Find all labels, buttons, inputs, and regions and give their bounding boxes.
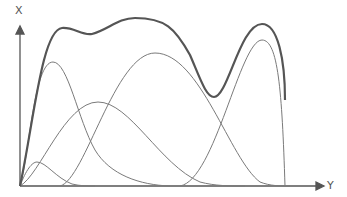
vertical-axis-arrow-icon: [16, 26, 24, 34]
component-curves: [20, 40, 290, 186]
horizontal-axis-arrow-icon: [316, 182, 324, 190]
component-curve-3: [20, 102, 245, 186]
component-curve-1: [20, 162, 95, 186]
component-curve-5: [180, 40, 285, 186]
horizontal-axis-label: Y: [327, 179, 334, 192]
gaussian-mixture-diagram: [0, 0, 347, 197]
envelope-curve: [20, 18, 285, 186]
vertical-axis-label: X: [15, 4, 23, 17]
component-curve-4: [60, 53, 290, 186]
axes: [16, 26, 324, 190]
component-curve-2: [20, 62, 170, 186]
